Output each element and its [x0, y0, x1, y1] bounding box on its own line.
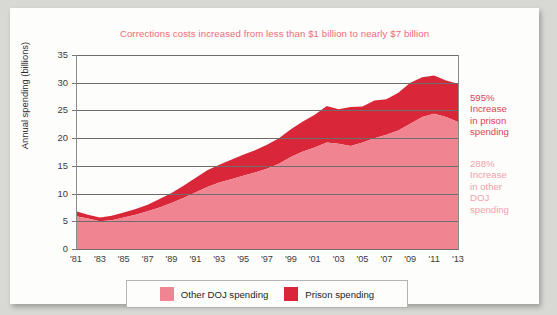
annotation-other-line4: spending: [470, 204, 534, 215]
x-tick-81: '81: [63, 254, 89, 264]
gridline-35: [76, 55, 458, 56]
legend-item-prison-spending: Prison spending: [284, 287, 374, 301]
gridline-25: [76, 110, 458, 111]
chart-screenshot: Corrections costs increased from less th…: [0, 0, 557, 315]
y-axis-line: [76, 55, 77, 250]
legend-item-other-doj-spending: Other DOJ spending: [160, 287, 268, 301]
x-tick-13: '13: [445, 254, 471, 264]
chart-legend: Other DOJ spending Prison spending: [126, 280, 408, 308]
x-tick-85: '85: [111, 254, 137, 264]
x-tick-97: '97: [254, 254, 280, 264]
gridline-30: [76, 83, 458, 84]
chart-card: Corrections costs increased from less th…: [10, 8, 539, 304]
legend-swatch-prison: [284, 287, 298, 301]
y-tick-20: 20: [38, 132, 68, 143]
annotation-other-doj-growth: 288% Increase in other DOJ spending: [470, 158, 534, 215]
x-tick-93: '93: [206, 254, 232, 264]
y-tick-0: 0: [38, 243, 68, 254]
stacked-area-series: [76, 55, 458, 249]
x-tick-95: '95: [230, 254, 256, 264]
x-tick-09: '09: [397, 254, 423, 264]
annotation-other-line1: Increase: [470, 169, 534, 180]
annotation-other-line3: DOJ: [470, 192, 534, 203]
gridline-20: [76, 138, 458, 139]
x-tick-91: '91: [182, 254, 208, 264]
y-axis-title: Annual spending (billions): [19, 6, 30, 186]
x-tick-83: '83: [87, 254, 113, 264]
x-tick-89: '89: [159, 254, 185, 264]
y-tick-15: 15: [38, 160, 68, 171]
chart-title: Corrections costs increased from less th…: [10, 28, 539, 39]
y-tick-10: 10: [38, 188, 68, 199]
annotation-prison-line2: in prison: [470, 115, 534, 126]
gridline-10: [76, 194, 458, 195]
legend-label-other-doj: Other DOJ spending: [181, 289, 268, 300]
plot-area: [76, 55, 458, 249]
legend-swatch-other-doj: [160, 287, 174, 301]
gridline-0: [76, 249, 458, 250]
y-tick-35: 35: [38, 49, 68, 60]
y-tick-25: 25: [38, 104, 68, 115]
gridline-15: [76, 166, 458, 167]
annotation-prison-percent: 595%: [470, 92, 534, 103]
x-tick-87: '87: [135, 254, 161, 264]
x-tick-05: '05: [350, 254, 376, 264]
y-tick-30: 30: [38, 77, 68, 88]
x-tick-01: '01: [302, 254, 328, 264]
legend-label-prison: Prison spending: [305, 289, 374, 300]
annotation-other-line2: in other: [470, 181, 534, 192]
annotation-prison-line3: spending: [470, 126, 534, 137]
area-other-doj-spending: [76, 114, 458, 249]
x-tick-07: '07: [373, 254, 399, 264]
annotation-other-percent: 288%: [470, 158, 534, 169]
gridline-5: [76, 221, 458, 222]
annotation-prison-growth: 595% Increase in prison spending: [470, 92, 534, 138]
plot-right-border: [458, 55, 459, 250]
annotation-prison-line1: Increase: [470, 103, 534, 114]
x-tick-99: '99: [278, 254, 304, 264]
x-tick-11: '11: [421, 254, 447, 264]
y-tick-5: 5: [38, 215, 68, 226]
x-tick-03: '03: [326, 254, 352, 264]
